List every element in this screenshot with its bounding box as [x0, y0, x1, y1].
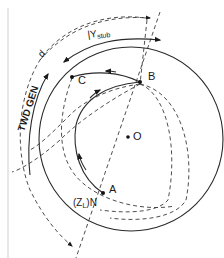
radial-dashed-line [76, 12, 160, 258]
point-b [138, 80, 142, 84]
label-y-stub: |Ystub [87, 26, 111, 41]
label-twd-gen: TWD GEN [15, 84, 40, 132]
label-zl-n: (ZL)N [73, 197, 97, 209]
point-c [70, 75, 74, 79]
label-o: O [133, 130, 142, 142]
dashed-circle-right-outer [110, 84, 189, 219]
label-b: B [148, 70, 155, 82]
outer-circle [39, 47, 223, 231]
stub-matching-diagram: A B C O (ZL)N |Ystub TWD GEN d [0, 0, 224, 258]
arc-b-to-c-arrow [106, 71, 116, 72]
point-a [101, 191, 105, 195]
arc-a-to-b-arrow [79, 154, 86, 170]
dashed-arc-left-2 [61, 78, 175, 208]
label-c: C [78, 74, 86, 86]
dashed-arc-left-1 [30, 84, 140, 150]
label-a: A [109, 183, 117, 195]
point-o [126, 135, 130, 139]
y-stub-arc [64, 39, 160, 62]
